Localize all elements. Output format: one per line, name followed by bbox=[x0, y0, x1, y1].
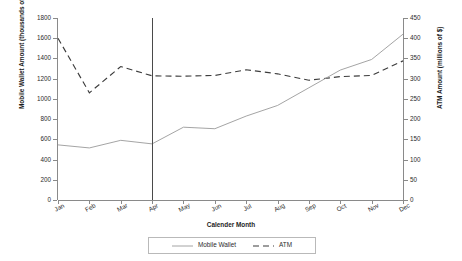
mobile-wallet-series-line bbox=[58, 34, 403, 148]
right-axis-tick-label: 400 bbox=[410, 35, 421, 41]
x-axis-tick-label: Jan bbox=[54, 203, 66, 213]
left-axis-tick bbox=[53, 18, 57, 19]
x-axis-line bbox=[58, 200, 403, 201]
x-axis-tick-label: Jul bbox=[243, 203, 253, 212]
series-layer bbox=[58, 18, 403, 200]
right-axis-tick-label: 0 bbox=[410, 197, 414, 203]
left-axis-tick-label: 1000 bbox=[37, 96, 51, 102]
left-axis-tick-label: 1600 bbox=[37, 35, 51, 41]
left-axis-tick-label: 1800 bbox=[37, 15, 51, 21]
x-axis-tick-label: Jun bbox=[210, 203, 222, 213]
left-axis-tick bbox=[53, 160, 57, 161]
x-axis-tick-label: Feb bbox=[85, 202, 98, 213]
left-axis-tick bbox=[53, 79, 57, 80]
right-axis-tick-label: 50 bbox=[410, 177, 417, 183]
right-axis-tick bbox=[404, 160, 408, 161]
legend-item-atm: ATM bbox=[253, 242, 292, 248]
left-axis-tick bbox=[53, 38, 57, 39]
dashed-line-icon bbox=[253, 243, 274, 249]
right-axis-tick-label: 100 bbox=[410, 157, 421, 163]
legend-item-mobile-wallet: Mobile Wallet bbox=[172, 242, 236, 248]
right-axis-tick bbox=[404, 58, 408, 59]
x-axis-tick-label: Aug bbox=[273, 202, 286, 213]
right-axis-tick-label: 350 bbox=[410, 55, 421, 61]
x-axis-tick-label: Sep bbox=[304, 202, 317, 213]
x-axis-tick-label: Dec bbox=[398, 202, 411, 213]
left-axis-tick bbox=[53, 139, 57, 140]
left-axis-tick bbox=[53, 99, 57, 100]
plot-area: 020040060080010001200140016001800 050100… bbox=[58, 18, 403, 200]
x-axis-tick-label: May bbox=[178, 202, 191, 213]
legend-label-mobile-wallet: Mobile Wallet bbox=[198, 242, 236, 248]
right-axis-tick bbox=[404, 99, 408, 100]
right-axis-tick bbox=[404, 38, 408, 39]
left-axis-tick bbox=[53, 180, 57, 181]
right-axis-tick bbox=[404, 180, 408, 181]
legend: Mobile Wallet ATM bbox=[148, 237, 316, 254]
right-axis-tick-label: 150 bbox=[410, 136, 421, 142]
solid-line-icon bbox=[172, 243, 193, 249]
x-axis-tick-label: Apr bbox=[148, 203, 160, 213]
left-axis-tick-label: 600 bbox=[40, 136, 51, 142]
left-axis-title: Mobile Wallet Amount (thousands of $) bbox=[19, 0, 25, 109]
right-axis-tick-label: 200 bbox=[410, 116, 421, 122]
right-axis-tick bbox=[404, 139, 408, 140]
x-axis-tick-label: Oct bbox=[336, 203, 348, 213]
left-axis-tick-label: 800 bbox=[40, 116, 51, 122]
left-axis-tick bbox=[53, 119, 57, 120]
x-axis-title: Calender Month bbox=[0, 222, 462, 228]
left-axis-tick-label: 1400 bbox=[37, 55, 51, 61]
left-axis-tick bbox=[53, 200, 57, 201]
left-axis-tick-label: 200 bbox=[40, 177, 51, 183]
right-axis-tick-label: 300 bbox=[410, 76, 421, 82]
x-axis-tick-label: Nov bbox=[367, 202, 380, 213]
right-axis-tick bbox=[404, 79, 408, 80]
left-axis-tick-label: 1200 bbox=[37, 76, 51, 82]
april-reference-line bbox=[152, 18, 153, 200]
legend-label-atm: ATM bbox=[279, 242, 292, 248]
right-axis-tick bbox=[404, 119, 408, 120]
right-axis-title: ATM Amount (millions of $) bbox=[437, 27, 443, 109]
left-axis-tick-label: 0 bbox=[47, 197, 51, 203]
right-axis-tick-label: 250 bbox=[410, 96, 421, 102]
left-axis-tick bbox=[53, 58, 57, 59]
atm-series-line bbox=[58, 38, 403, 93]
right-axis-tick bbox=[404, 18, 408, 19]
x-axis-tick-label: Mar bbox=[116, 202, 129, 213]
right-axis-tick-label: 450 bbox=[410, 15, 421, 21]
dual-axis-line-chart: Mobile Wallet Amount (thousands of $) AT… bbox=[0, 0, 462, 261]
left-axis-tick-label: 400 bbox=[40, 157, 51, 163]
right-axis-line bbox=[403, 18, 404, 200]
